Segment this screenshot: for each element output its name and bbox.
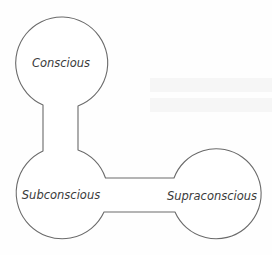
consciousness-diagram: Conscious Subconscious Supraconscious: [0, 0, 272, 255]
node-label-supraconscious: Supraconscious: [167, 189, 257, 203]
node-label-conscious: Conscious: [32, 56, 90, 70]
diagram-canvas: Conscious Subconscious Supraconscious: [0, 0, 272, 255]
merged-shape-outline: [16, 17, 261, 239]
background-bleed-through: [150, 78, 272, 112]
node-label-subconscious: Subconscious: [22, 188, 100, 202]
